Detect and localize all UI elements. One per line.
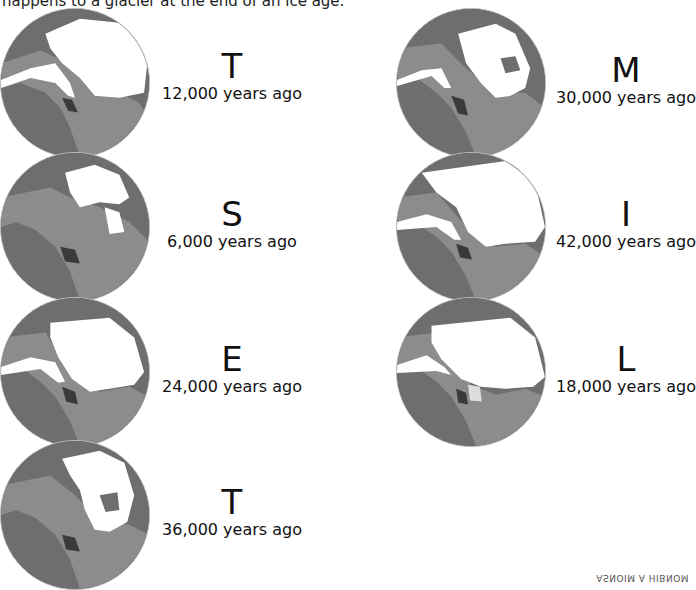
north-america-map-icon bbox=[397, 153, 545, 301]
label-block: I 42,000 years ago bbox=[556, 196, 696, 252]
puzzle-letter: T bbox=[162, 48, 302, 84]
north-america-map-icon bbox=[1, 298, 149, 446]
label-block: T 12,000 years ago bbox=[162, 48, 302, 104]
time-caption: 30,000 years ago bbox=[556, 88, 696, 108]
globe-map-image bbox=[0, 152, 150, 302]
glacier-panel-6000: S 6,000 years ago bbox=[0, 152, 330, 297]
globe-map-image bbox=[0, 8, 150, 158]
label-block: E 24,000 years ago bbox=[162, 341, 302, 397]
label-block: S 6,000 years ago bbox=[162, 196, 302, 252]
globe-map-image bbox=[396, 297, 546, 447]
time-caption: 12,000 years ago bbox=[162, 84, 302, 104]
north-america-map-icon bbox=[1, 9, 149, 157]
puzzle-letter: E bbox=[162, 341, 302, 377]
globe-map-image bbox=[0, 297, 150, 447]
label-block: M 30,000 years ago bbox=[556, 52, 696, 108]
label-block: T 36,000 years ago bbox=[162, 484, 302, 540]
north-america-map-icon bbox=[1, 441, 149, 589]
north-america-map-icon bbox=[1, 153, 149, 301]
label-block: L 18,000 years ago bbox=[556, 341, 696, 397]
puzzle-letter: T bbox=[162, 484, 302, 520]
glacier-panel-30000: M 30,000 years ago bbox=[396, 8, 693, 153]
glacier-panel-18000: L 18,000 years ago bbox=[396, 297, 693, 442]
footer-text: ASNOIM A HIBNOM bbox=[596, 573, 689, 583]
puzzle-letter: L bbox=[556, 341, 696, 377]
time-caption: 6,000 years ago bbox=[162, 232, 302, 252]
globe-map-image bbox=[0, 440, 150, 590]
globe-map-image bbox=[396, 8, 546, 158]
time-caption: 24,000 years ago bbox=[162, 377, 302, 397]
glacier-panel-12000: T 12,000 years ago bbox=[0, 8, 330, 153]
glacier-panel-24000: E 24,000 years ago bbox=[0, 297, 330, 442]
puzzle-letter: I bbox=[556, 196, 696, 232]
puzzle-letter: S bbox=[162, 196, 302, 232]
north-america-map-icon bbox=[397, 298, 545, 446]
glacier-panel-42000: I 42,000 years ago bbox=[396, 152, 693, 297]
time-caption: 36,000 years ago bbox=[162, 520, 302, 540]
glacier-panel-36000: T 36,000 years ago bbox=[0, 440, 330, 585]
time-caption: 18,000 years ago bbox=[556, 377, 696, 397]
north-america-map-icon bbox=[397, 9, 545, 157]
puzzle-letter: M bbox=[556, 52, 696, 88]
globe-map-image bbox=[396, 152, 546, 302]
time-caption: 42,000 years ago bbox=[556, 232, 696, 252]
